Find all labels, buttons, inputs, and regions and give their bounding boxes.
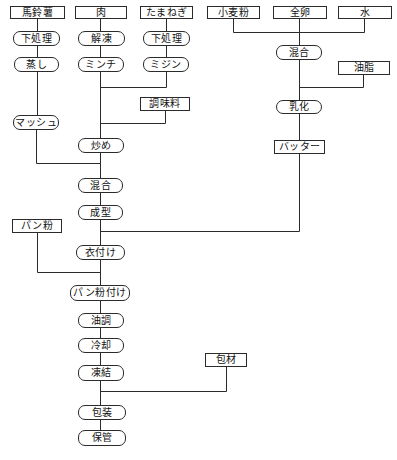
node-mold: 成型 — [78, 205, 123, 220]
edge-fat-emulsify — [300, 75, 364, 88]
node-batter-mix: 混合 — [276, 45, 322, 60]
node-prep-potato: 下処理 — [13, 31, 60, 46]
node-store: 保管 — [78, 430, 126, 446]
node-onion: たまねぎ — [140, 6, 193, 19]
node-prep-onion: 下処理 — [143, 31, 190, 46]
node-package: 包装 — [78, 405, 126, 420]
edge-seasoning-stirfry — [101, 111, 166, 124]
node-egg: 全卵 — [273, 6, 327, 19]
node-stir-fry: 炒め — [78, 138, 124, 153]
node-cool: 冷却 — [78, 338, 124, 353]
node-emulsify: 乳化 — [276, 100, 322, 114]
node-mash: マッシュ — [13, 115, 59, 130]
edge-batter-coat — [101, 154, 300, 232]
node-meat: 肉 — [75, 6, 127, 19]
node-potato: 馬鈴薯 — [10, 6, 65, 19]
node-seasoning: 調味料 — [140, 97, 190, 111]
node-packaging-material: 包材 — [205, 353, 247, 367]
node-mince: ミンチ — [78, 57, 124, 72]
node-breading: パン粉付け — [70, 285, 130, 301]
node-mix: 混合 — [78, 178, 123, 193]
node-chop: ミジン — [143, 57, 189, 72]
node-freeze: 凍結 — [78, 365, 124, 381]
process-flowchart: 馬鈴薯 肉 たまねぎ 小麦粉 全卵 水 下処理 解凍 下処理 混合 蒸し ミンチ… — [0, 0, 397, 460]
node-fry: 油調 — [78, 313, 124, 328]
edge-chop-stirfry — [101, 72, 167, 88]
node-steam: 蒸し — [14, 57, 59, 72]
node-thaw: 解凍 — [78, 31, 125, 46]
node-flour: 小麦粉 — [207, 6, 260, 19]
node-batter: バッター — [274, 140, 325, 154]
node-coat: 衣付け — [76, 245, 125, 260]
node-water: 水 — [338, 6, 392, 19]
node-fat: 油脂 — [338, 61, 390, 75]
node-breadcrumbs: パン粉 — [12, 219, 62, 233]
